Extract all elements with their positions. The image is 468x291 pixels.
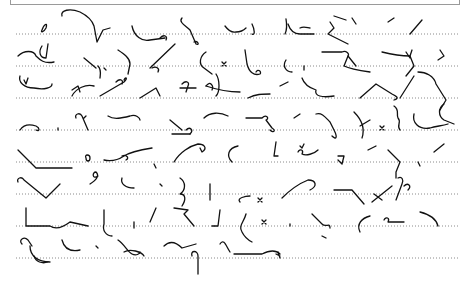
shorthand-outline	[328, 22, 348, 44]
shorthand-outline	[150, 208, 156, 222]
shorthand-outline	[26, 208, 88, 228]
shorthand-outline	[118, 50, 130, 74]
shorthand-outline	[359, 216, 370, 232]
shorthand-outline	[262, 220, 266, 224]
shorthand-outline	[192, 252, 198, 275]
shorthand-outline	[284, 60, 292, 72]
shorthand-outline	[150, 44, 175, 68]
shorthand-outline	[200, 52, 212, 74]
shorthand-outline	[96, 246, 98, 248]
shorthand-outline	[252, 24, 254, 34]
shorthand-outline	[220, 242, 230, 252]
shorthand-outline	[164, 242, 196, 248]
shorthand-outline	[18, 52, 54, 63]
shorthand-outline	[212, 210, 220, 226]
shorthand-outline	[300, 144, 304, 148]
shorthand-outline	[122, 178, 134, 188]
shorthand-outline	[418, 162, 420, 166]
shorthand-outline	[174, 144, 205, 162]
shorthand-outline	[98, 66, 101, 78]
shorthand-outline	[41, 24, 46, 31]
shorthand-outline	[404, 184, 410, 190]
shorthand-outline	[384, 218, 404, 222]
shorthand-outline	[170, 120, 182, 130]
shorthand-outline	[354, 112, 370, 138]
shorthand-outline	[288, 24, 314, 34]
shorthand-outline	[294, 114, 300, 118]
shorthand-outline	[316, 114, 336, 138]
shorthand-strokes	[18, 10, 454, 274]
shorthand-outline	[180, 178, 185, 206]
shorthand-outline	[239, 196, 250, 202]
shorthand-outline	[229, 146, 238, 162]
shorthand-outline	[160, 184, 162, 186]
shorthand-outline	[86, 155, 90, 161]
shorthand-outline	[410, 20, 422, 34]
shorthand-outline	[298, 150, 318, 155]
shorthand-outline	[152, 67, 159, 72]
shorthand-outline	[380, 126, 384, 130]
shorthand-outline	[400, 76, 414, 98]
shorthand-outline	[322, 236, 326, 238]
shorthand-outline	[334, 16, 356, 24]
shorthand-outline	[382, 52, 414, 76]
shorthand-outline	[246, 116, 274, 131]
shorthand-outline	[225, 26, 246, 32]
shorthand-outline	[300, 27, 310, 28]
shorthand-outline	[108, 115, 140, 120]
shorthand-outline	[334, 190, 364, 204]
shorthand-outline	[414, 114, 448, 128]
shorthand-outline	[388, 150, 400, 178]
shorthand-outline	[76, 114, 88, 130]
shorthand-outline	[104, 68, 106, 70]
shorthand-outline	[181, 18, 198, 44]
shorthand-outline	[118, 240, 140, 255]
shorthand-outline	[40, 44, 48, 58]
shorthand-outline	[18, 150, 72, 168]
shorthand-outline	[406, 50, 412, 58]
shorthand-outline	[174, 208, 194, 226]
shorthand-outline	[368, 146, 376, 150]
shorthand-outline	[62, 240, 80, 251]
shorthand-outline	[103, 210, 112, 236]
shorthand-outline	[282, 180, 315, 198]
shorthand-outline	[302, 78, 334, 97]
shorthand-outline	[18, 178, 60, 198]
shorthand-outline	[388, 18, 394, 22]
shorthand-outline	[140, 88, 160, 98]
shorthand-outline	[90, 172, 98, 184]
shorthand-outline	[418, 72, 446, 110]
shorthand-outline	[24, 78, 28, 84]
shorthand-outline	[206, 86, 240, 92]
shorthand-outline	[245, 50, 261, 75]
shorthand-outline	[154, 164, 156, 168]
shorthand-page	[0, 0, 468, 291]
shorthand-outline	[241, 214, 252, 242]
shorthand-outline	[420, 212, 438, 226]
shorthand-outline	[394, 106, 400, 130]
shorthand-outline	[274, 142, 278, 156]
shorthand-outline	[438, 50, 444, 60]
shorthand-outline	[312, 214, 330, 228]
shorthand-outline	[280, 82, 288, 86]
shorthand-outline	[222, 62, 226, 66]
shorthand-outline	[322, 51, 370, 72]
shorthand-outline	[248, 94, 270, 98]
shorthand-outline	[234, 251, 280, 254]
shorthand-outline	[396, 177, 403, 200]
shorthand-outline	[338, 156, 344, 164]
shorthand-outline	[434, 144, 444, 152]
shorthand-outline	[216, 74, 219, 96]
shorthand-outline	[204, 113, 228, 118]
shorthand-outline	[186, 128, 192, 134]
shorthand-outline	[258, 198, 262, 202]
shorthand-outline	[440, 104, 455, 124]
shorthand-outline	[285, 19, 287, 34]
shorthand-outline	[180, 82, 196, 92]
shorthand-outline	[348, 56, 356, 66]
shorthand-outline	[62, 10, 110, 42]
